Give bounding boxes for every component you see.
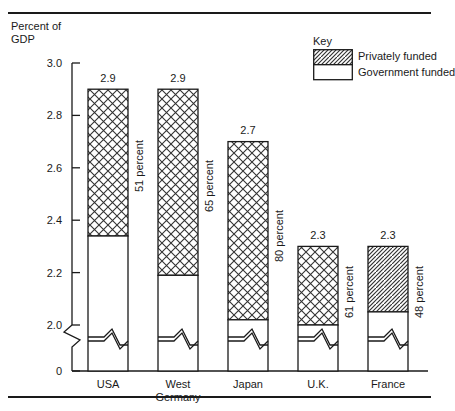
bar-france [368, 246, 408, 371]
y-tick-label-2-2: 2.2 [28, 267, 62, 279]
bar-uk [298, 246, 338, 371]
legend-swatch-private [314, 50, 353, 65]
percent-annotation-usa: 51 percent [133, 140, 145, 192]
y-tick-label-2-0: 2.0 [28, 319, 62, 331]
legend-title: Key [313, 35, 332, 47]
x-category-label-france: France [371, 378, 405, 391]
value-label-japan: 2.7 [240, 124, 255, 136]
bar-west-germany [158, 89, 198, 371]
bar-usa [88, 89, 128, 371]
value-label-france: 2.3 [380, 229, 395, 241]
y-axis-ticks [72, 63, 80, 371]
x-category-label-uk: U.K. [307, 378, 328, 391]
legend-swatch-group [313, 49, 353, 81]
legend-swatch-government [314, 65, 353, 80]
x-category-label-usa: USA [97, 378, 120, 391]
x-category-label-japan: Japan [233, 378, 263, 391]
percent-annotation-france: 48 percent [413, 266, 425, 318]
y-tick-label-3-0: 3.0 [28, 57, 62, 69]
y-tick-label-2-6: 2.6 [28, 162, 62, 174]
y-tick-label-2-4: 2.4 [28, 214, 62, 226]
bar-japan [228, 142, 268, 371]
legend-label-private: Privately funded [358, 50, 437, 62]
legend-label-government: Government funded [358, 66, 455, 78]
y-tick-label-2-8: 2.8 [28, 109, 62, 121]
value-label-usa: 2.9 [100, 72, 115, 84]
percent-annotation-japan: 80 percent [273, 210, 285, 262]
x-category-label-west-germany: West Germany [155, 378, 200, 403]
percent-annotation-west-germany: 65 percent [203, 160, 215, 212]
y-axis-break-mark [64, 325, 80, 371]
percent-annotation-uk: 61 percent [343, 266, 355, 318]
value-label-west-germany: 2.9 [170, 72, 185, 84]
y-tick-label-0: 0 [28, 365, 62, 377]
value-label-uk: 2.3 [310, 229, 325, 241]
